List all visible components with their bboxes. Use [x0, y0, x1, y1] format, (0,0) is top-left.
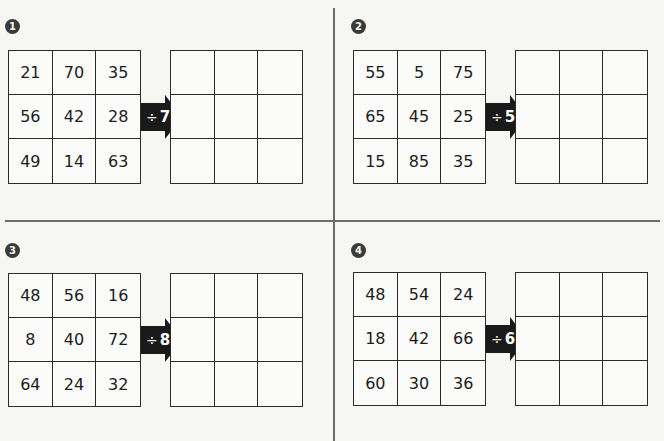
answer-cell[interactable] — [560, 317, 604, 361]
answer-grid — [515, 50, 648, 184]
input-cell: 21 — [9, 51, 53, 95]
answer-cell[interactable] — [516, 273, 560, 317]
answer-cell[interactable] — [171, 362, 215, 406]
divisor: 5 — [505, 108, 515, 126]
exercise-number-badge: 3 — [5, 243, 20, 258]
answer-cell[interactable] — [215, 95, 259, 139]
answer-cell[interactable] — [560, 95, 604, 139]
input-cell: 16 — [96, 274, 140, 318]
answer-cell[interactable] — [258, 274, 302, 318]
input-cell: 63 — [96, 139, 140, 183]
input-cell: 18 — [354, 317, 398, 361]
input-cell: 35 — [441, 139, 485, 183]
answer-cell[interactable] — [215, 362, 259, 406]
input-cell: 54 — [398, 273, 442, 317]
input-cell: 72 — [96, 318, 140, 362]
answer-cell[interactable] — [215, 139, 259, 183]
input-cell: 28 — [96, 95, 140, 139]
answer-cell[interactable] — [171, 139, 215, 183]
input-cell: 42 — [398, 317, 442, 361]
input-cell: 42 — [53, 95, 97, 139]
input-cell: 45 — [398, 95, 442, 139]
input-cell: 24 — [53, 362, 97, 406]
exercise-1: 1 21 70 35 56 42 28 49 14 63 ÷7 — [0, 0, 330, 210]
input-cell: 5 — [398, 51, 442, 95]
answer-cell[interactable] — [516, 95, 560, 139]
input-grid: 21 70 35 56 42 28 49 14 63 — [8, 50, 141, 184]
exercise-number-badge: 2 — [351, 19, 366, 34]
divide-symbol: ÷ — [491, 109, 503, 125]
input-cell: 64 — [9, 362, 53, 406]
input-cell: 8 — [9, 318, 53, 362]
answer-cell[interactable] — [258, 51, 302, 95]
input-cell: 35 — [96, 51, 140, 95]
answer-cell[interactable] — [171, 318, 215, 362]
exercise-4: 4 48 54 24 18 42 66 60 30 36 ÷6 — [345, 223, 664, 433]
input-cell: 30 — [398, 361, 442, 405]
input-cell: 48 — [9, 274, 53, 318]
answer-cell[interactable] — [560, 139, 604, 183]
answer-cell[interactable] — [603, 361, 647, 405]
input-cell: 60 — [354, 361, 398, 405]
divisor: 8 — [160, 331, 170, 349]
exercise-number-badge: 4 — [351, 243, 366, 258]
answer-cell[interactable] — [171, 95, 215, 139]
divisor: 6 — [505, 330, 515, 348]
input-cell: 66 — [441, 317, 485, 361]
answer-cell[interactable] — [258, 95, 302, 139]
input-grid: 55 5 75 65 45 25 15 85 35 — [353, 50, 486, 184]
input-cell: 25 — [441, 95, 485, 139]
answer-cell[interactable] — [603, 51, 647, 95]
input-cell: 15 — [354, 139, 398, 183]
answer-cell[interactable] — [560, 51, 604, 95]
divide-symbol: ÷ — [491, 331, 503, 347]
divide-symbol: ÷ — [146, 109, 158, 125]
answer-cell[interactable] — [516, 51, 560, 95]
input-grid: 48 56 16 8 40 72 64 24 32 — [8, 273, 141, 407]
answer-cell[interactable] — [603, 95, 647, 139]
horizontal-divider — [5, 220, 660, 222]
answer-cell[interactable] — [215, 274, 259, 318]
input-cell: 70 — [53, 51, 97, 95]
input-cell: 55 — [354, 51, 398, 95]
divide-symbol: ÷ — [146, 332, 158, 348]
input-cell: 75 — [441, 51, 485, 95]
answer-cell[interactable] — [215, 51, 259, 95]
exercise-3: 3 48 56 16 8 40 72 64 24 32 ÷8 — [0, 223, 330, 433]
divisor: 7 — [160, 108, 170, 126]
input-cell: 85 — [398, 139, 442, 183]
input-cell: 40 — [53, 318, 97, 362]
answer-grid — [170, 273, 303, 407]
input-cell: 56 — [9, 95, 53, 139]
answer-grid — [515, 272, 648, 406]
answer-cell[interactable] — [258, 362, 302, 406]
answer-cell[interactable] — [560, 361, 604, 405]
exercise-2: 2 55 5 75 65 45 25 15 85 35 ÷5 — [345, 0, 664, 210]
answer-grid — [170, 50, 303, 184]
answer-cell[interactable] — [516, 317, 560, 361]
answer-cell[interactable] — [215, 318, 259, 362]
answer-cell[interactable] — [603, 273, 647, 317]
answer-cell[interactable] — [171, 274, 215, 318]
input-cell: 65 — [354, 95, 398, 139]
answer-cell[interactable] — [603, 317, 647, 361]
answer-cell[interactable] — [560, 273, 604, 317]
vertical-divider — [333, 8, 335, 441]
input-cell: 49 — [9, 139, 53, 183]
input-cell: 36 — [441, 361, 485, 405]
answer-cell[interactable] — [516, 139, 560, 183]
exercise-number-badge: 1 — [5, 19, 20, 34]
answer-cell[interactable] — [603, 139, 647, 183]
input-cell: 48 — [354, 273, 398, 317]
input-cell: 32 — [96, 362, 140, 406]
answer-cell[interactable] — [258, 139, 302, 183]
input-grid: 48 54 24 18 42 66 60 30 36 — [353, 272, 486, 406]
input-cell: 56 — [53, 274, 97, 318]
input-cell: 14 — [53, 139, 97, 183]
answer-cell[interactable] — [258, 318, 302, 362]
answer-cell[interactable] — [516, 361, 560, 405]
answer-cell[interactable] — [171, 51, 215, 95]
input-cell: 24 — [441, 273, 485, 317]
